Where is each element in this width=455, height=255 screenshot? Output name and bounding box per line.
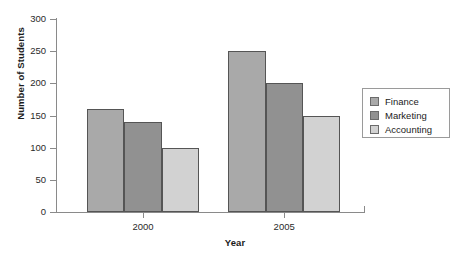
legend: Finance Marketing Accounting: [362, 88, 450, 138]
legend-swatch-marketing: [370, 111, 379, 120]
x-tick-label: 2000: [103, 221, 183, 232]
legend-swatch-accounting: [370, 125, 379, 134]
y-axis-title: Number of Students: [15, 4, 26, 144]
x-axis-end-tick: [364, 206, 365, 213]
legend-label-marketing: Marketing: [385, 110, 427, 121]
y-tick-label: 300: [6, 13, 46, 24]
x-axis-line: [56, 212, 365, 213]
y-tick-label: 150: [6, 110, 46, 121]
bars-layer: [57, 19, 364, 212]
legend-label-finance: Finance: [385, 96, 419, 107]
bar-marketing-2000: [124, 122, 161, 212]
legend-item[interactable]: Marketing: [370, 108, 449, 122]
y-tick: [50, 180, 56, 181]
legend-label-accounting: Accounting: [385, 124, 432, 135]
y-tick-label: 250: [6, 45, 46, 56]
legend-item[interactable]: Accounting: [370, 122, 449, 136]
y-tick: [50, 83, 56, 84]
y-tick: [50, 51, 56, 52]
legend-swatch-finance: [370, 97, 379, 106]
y-tick-label: 50: [6, 174, 46, 185]
chart-container: Number of Students Year 0501001502002503…: [0, 0, 455, 255]
x-tick: [143, 212, 144, 218]
y-tick: [50, 116, 56, 117]
bar-finance-2005: [228, 51, 265, 212]
y-tick-label: 0: [6, 206, 46, 217]
x-tick-label: 2005: [244, 221, 324, 232]
y-tick-label: 100: [6, 142, 46, 153]
y-tick: [50, 19, 56, 20]
y-tick: [50, 148, 56, 149]
bar-accounting-2005: [303, 116, 340, 213]
legend-item[interactable]: Finance: [370, 94, 449, 108]
y-tick-label: 200: [6, 77, 46, 88]
bar-accounting-2000: [162, 148, 199, 212]
x-axis-title: Year: [110, 237, 360, 248]
bar-finance-2000: [87, 109, 124, 212]
bar-marketing-2005: [266, 83, 303, 212]
y-tick: [50, 212, 56, 213]
x-tick: [284, 212, 285, 218]
